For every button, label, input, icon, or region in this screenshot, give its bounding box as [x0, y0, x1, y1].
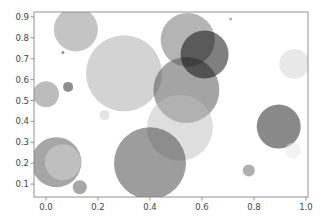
x-tick-label: 0.8: [247, 202, 261, 212]
bubble-point: [285, 143, 301, 159]
bubble-point: [100, 110, 110, 120]
y-tick-label: 0.3: [15, 137, 29, 147]
y-tick-label: 0.6: [15, 75, 29, 85]
bubble-point: [279, 49, 309, 79]
y-tick-label: 0.8: [15, 33, 29, 43]
x-tick-label: 0.4: [143, 202, 157, 212]
x-tick-label: 1.0: [299, 202, 313, 212]
bubble-point: [45, 144, 81, 180]
y-tick-label: 0.7: [15, 54, 29, 64]
x-axis: 0.00.20.40.60.81.0: [39, 197, 313, 212]
y-axis: 0.10.20.30.40.50.60.70.80.9: [15, 12, 34, 189]
bubble-point: [181, 31, 229, 79]
bubble-point: [243, 165, 255, 177]
bubble-point: [63, 82, 73, 92]
y-tick-label: 0.4: [15, 116, 29, 126]
bubble-point: [54, 7, 98, 51]
bubble-point: [33, 81, 59, 107]
y-tick-label: 0.1: [15, 179, 29, 189]
y-tick-label: 0.5: [15, 96, 29, 106]
bubble-point: [114, 127, 186, 199]
bubble-chart: 0.00.20.40.60.81.0 0.10.20.30.40.50.60.7…: [0, 0, 324, 223]
x-tick-label: 0.2: [91, 202, 105, 212]
x-tick-label: 0.6: [195, 202, 209, 212]
y-tick-label: 0.2: [15, 158, 29, 168]
bubble-point: [73, 180, 87, 194]
x-tick-label: 0.0: [39, 202, 53, 212]
bubble-point: [257, 105, 301, 149]
bubble-point: [61, 51, 64, 54]
bubble-point: [86, 35, 162, 111]
bubble-point: [229, 18, 232, 21]
y-tick-label: 0.9: [15, 12, 29, 22]
